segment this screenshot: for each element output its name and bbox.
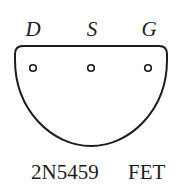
pin-label-drain: D	[24, 17, 40, 41]
pin-gate	[145, 65, 152, 72]
pin-label-gate: G	[141, 17, 156, 41]
part-number: 2N5459	[31, 160, 99, 184]
device-type: FET	[128, 160, 166, 184]
fet-pinout-diagram: D S G 2N5459 FET	[0, 0, 179, 190]
package-outline	[15, 46, 167, 146]
pin-source	[88, 65, 95, 72]
pin-drain	[30, 65, 37, 72]
pin-label-source: S	[87, 17, 98, 41]
